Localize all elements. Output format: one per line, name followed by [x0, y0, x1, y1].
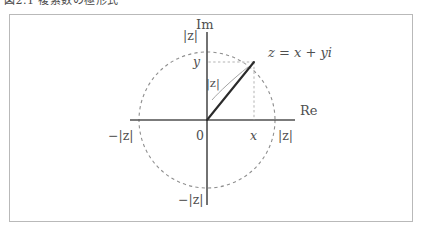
tick-label-right-modulus: |z|: [278, 130, 293, 143]
complex-plane-svg: [0, 0, 422, 235]
point-z-label: z = x + yi: [268, 46, 332, 59]
modulus-vector: [207, 62, 254, 120]
y-coordinate-label: y: [193, 56, 200, 69]
imaginary-axis-label: Im: [196, 18, 213, 31]
real-axis-label: Re: [300, 104, 317, 117]
tick-label-left-modulus: −|z|: [108, 130, 133, 143]
tick-label-top-modulus: |z|: [183, 30, 198, 43]
origin-label: 0: [196, 130, 204, 143]
modulus-vector-label: |z|: [206, 78, 220, 90]
x-coordinate-label: x: [250, 130, 257, 143]
tick-label-bottom-modulus: −|z|: [178, 194, 203, 207]
figure-page: 図2.1 複素数の極形式 Im Re |z| −|z| −|z| |z| 0 x…: [0, 0, 422, 235]
